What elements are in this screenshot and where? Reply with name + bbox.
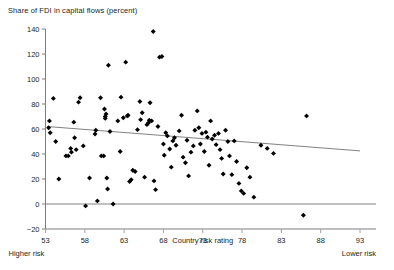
svg-text:140: 140 — [27, 25, 40, 34]
svg-text:40: 40 — [31, 150, 39, 159]
svg-text:0: 0 — [35, 200, 39, 209]
svg-text:−20: −20 — [27, 225, 40, 234]
svg-text:88: 88 — [317, 236, 325, 245]
svg-text:Lower risk: Lower risk — [342, 249, 376, 258]
svg-text:53: 53 — [41, 236, 49, 245]
y-axis-ticks: −20020406080100120140 — [27, 25, 46, 234]
svg-text:Higher risk: Higher risk — [9, 249, 45, 258]
svg-text:120: 120 — [27, 50, 40, 59]
svg-text:80: 80 — [31, 100, 39, 109]
svg-text:100: 100 — [27, 75, 40, 84]
svg-text:60: 60 — [31, 125, 39, 134]
svg-text:Country risk rating: Country risk rating — [172, 236, 233, 245]
svg-text:93: 93 — [356, 236, 364, 245]
svg-text:78: 78 — [238, 236, 246, 245]
svg-text:63: 63 — [120, 236, 128, 245]
scatter-plot-svg: −20020406080100120140 535863687378838893… — [0, 0, 394, 270]
data-points — [46, 29, 309, 218]
svg-text:68: 68 — [159, 236, 167, 245]
chart-container: Share of FDI in capital flows (percent) … — [0, 0, 394, 270]
svg-text:58: 58 — [81, 236, 89, 245]
svg-text:83: 83 — [277, 236, 285, 245]
svg-text:20: 20 — [31, 175, 39, 184]
